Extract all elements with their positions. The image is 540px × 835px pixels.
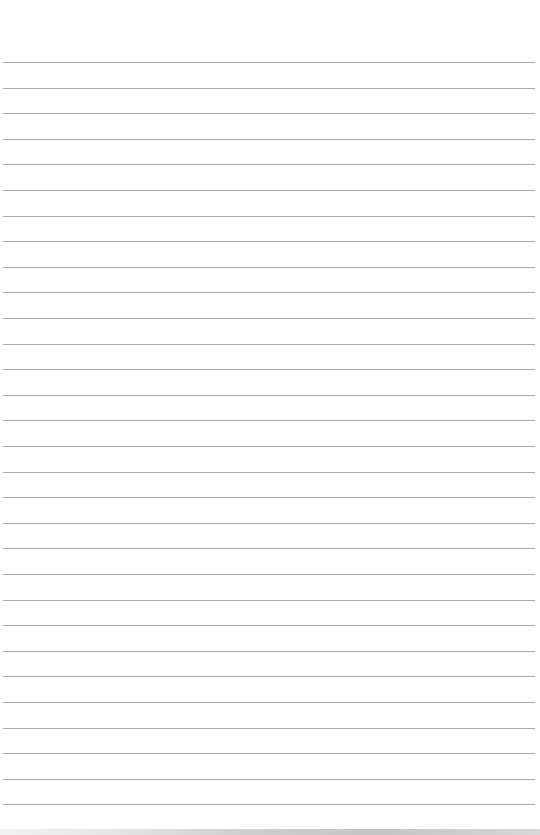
ruled-line — [3, 446, 535, 447]
ruled-line — [3, 241, 535, 242]
ruled-line — [3, 548, 535, 549]
ruled-line — [3, 344, 535, 345]
ruled-line — [3, 88, 535, 89]
ruled-line — [3, 523, 535, 524]
ruled-line — [3, 574, 535, 575]
ruled-line — [3, 62, 535, 63]
ruled-line — [3, 651, 535, 652]
ruled-line — [3, 804, 535, 805]
ruled-line — [3, 420, 535, 421]
ruled-line — [3, 676, 535, 677]
ruled-line — [3, 164, 535, 165]
ruled-line — [3, 318, 535, 319]
ruled-line — [3, 472, 535, 473]
ruled-line — [3, 753, 535, 754]
ruled-line — [3, 702, 535, 703]
ruled-line — [3, 292, 535, 293]
ruled-line — [3, 497, 535, 498]
ruled-line — [3, 625, 535, 626]
ruled-line — [3, 779, 535, 780]
ruled-line — [3, 369, 535, 370]
scan-edge-shadow — [0, 829, 540, 835]
ruled-line — [3, 113, 535, 114]
ruled-line — [3, 139, 535, 140]
ruled-line — [3, 216, 535, 217]
ruled-line — [3, 190, 535, 191]
ruled-line — [3, 728, 535, 729]
ruled-line — [3, 600, 535, 601]
ruled-line — [3, 267, 535, 268]
ruled-line — [3, 395, 535, 396]
